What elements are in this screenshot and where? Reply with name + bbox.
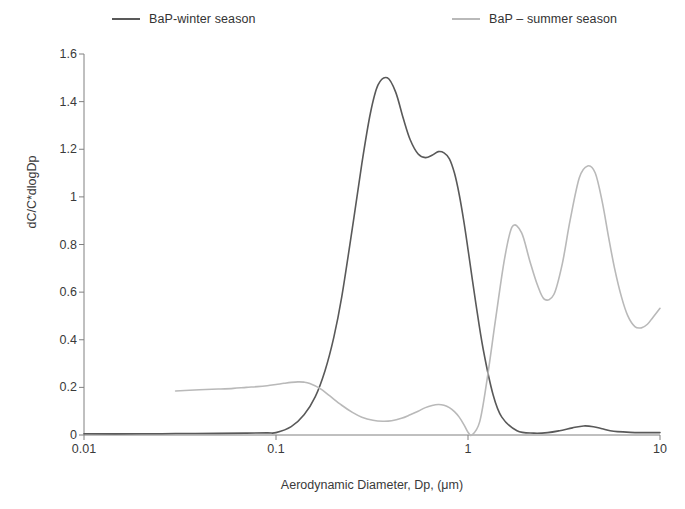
data-series-group xyxy=(84,78,660,436)
chart-figure: BaP-winter season BaP – summer season dC… xyxy=(0,0,685,509)
series-line-summer xyxy=(176,166,660,436)
series-line-winter xyxy=(84,78,660,434)
plot-canvas xyxy=(0,0,685,509)
axis-lines xyxy=(79,54,660,440)
